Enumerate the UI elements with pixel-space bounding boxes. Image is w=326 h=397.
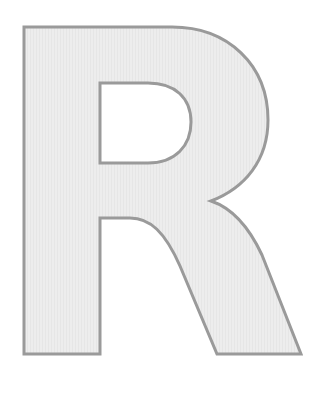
letter-canvas: R [0, 0, 326, 397]
letter-r-glyph [0, 0, 326, 397]
